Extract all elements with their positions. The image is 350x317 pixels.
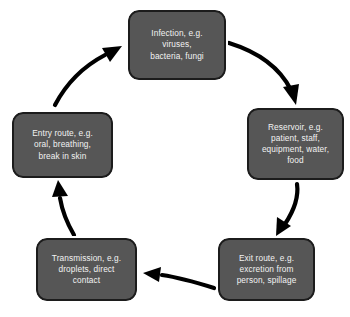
arrow-reservoir-to-exit: [276, 184, 297, 236]
node-infection-label: Infection, e.g. viruses, bacteria, fungi: [150, 28, 204, 62]
node-exit-route: Exit route, e.g. excretion from person, …: [218, 238, 315, 301]
node-transmission-label: Transmission, e.g. droplets, direct cont…: [52, 253, 121, 287]
arrow-exit-to-transmission: [143, 267, 214, 288]
arrow-infection-to-reservoir: [229, 43, 299, 105]
node-transmission: Transmission, e.g. droplets, direct cont…: [36, 238, 137, 301]
node-entry-route: Entry route, e.g. oral, breathing, break…: [12, 112, 113, 178]
node-reservoir-label: Reservoir, e.g. patient, staff, equipmen…: [262, 122, 329, 167]
chain-of-infection-diagram: Infection, e.g. viruses, bacteria, fungi…: [0, 0, 350, 317]
arrow-transmission-to-entry: [52, 180, 74, 235]
node-reservoir: Reservoir, e.g. patient, staff, equipmen…: [247, 108, 344, 180]
node-exit-route-label: Exit route, e.g. excretion from person, …: [237, 253, 297, 287]
node-entry-route-label: Entry route, e.g. oral, breathing, break…: [32, 128, 93, 162]
node-infection: Infection, e.g. viruses, bacteria, fungi: [128, 10, 226, 80]
arrow-entry-to-infection: [55, 46, 122, 105]
